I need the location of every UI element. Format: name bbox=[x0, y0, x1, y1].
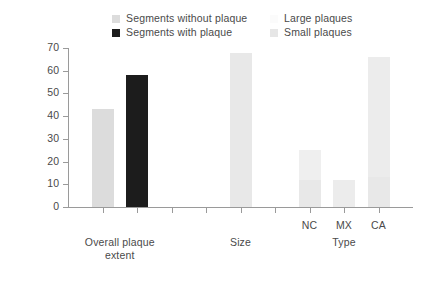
x-axis-tick bbox=[344, 207, 345, 213]
bar bbox=[126, 75, 148, 207]
x-axis-group-label: Overall plaqueextent bbox=[75, 236, 165, 262]
y-axis-tick-label: 0 bbox=[53, 200, 59, 212]
legend-swatch-segments-without-plaque bbox=[112, 15, 120, 23]
legend-label-small-plaques: Small plaques bbox=[284, 27, 352, 38]
x-axis-group-label-line: Size bbox=[196, 236, 286, 249]
bar-segment bbox=[333, 180, 355, 207]
x-axis-tick bbox=[137, 207, 138, 213]
chart-legend: Segments without plaque Segments with pl… bbox=[112, 12, 412, 42]
x-axis-group-label-line: extent bbox=[75, 249, 165, 262]
y-axis-tick-label: 50 bbox=[47, 86, 59, 98]
y-axis-tick: 20 bbox=[63, 162, 68, 163]
plot-area: 010203040506070 bbox=[68, 48, 413, 207]
x-axis-tick bbox=[275, 207, 276, 213]
legend-column-left: Segments without plaque Segments with pl… bbox=[112, 12, 247, 40]
x-axis-tick bbox=[103, 207, 104, 213]
y-axis-tick: 10 bbox=[63, 184, 68, 185]
bar-segment bbox=[126, 75, 148, 207]
bar bbox=[92, 109, 114, 207]
bar bbox=[368, 57, 390, 207]
bar bbox=[230, 53, 252, 207]
y-axis-tick: 50 bbox=[63, 93, 68, 94]
y-axis-line bbox=[68, 48, 69, 207]
y-axis-tick-label: 30 bbox=[47, 132, 59, 144]
x-axis-group-label: Size bbox=[196, 236, 286, 249]
chart-figure: Segments without plaque Segments with pl… bbox=[0, 0, 421, 292]
y-axis-tick: 70 bbox=[63, 48, 68, 49]
legend-label-segments-without-plaque: Segments without plaque bbox=[126, 13, 247, 24]
y-axis-tick-label: 70 bbox=[47, 41, 59, 53]
y-axis-tick-label: 10 bbox=[47, 177, 59, 189]
bar bbox=[299, 150, 321, 207]
y-axis-tick: 30 bbox=[63, 139, 68, 140]
y-axis-tick-label: 40 bbox=[47, 109, 59, 121]
x-axis-tick bbox=[241, 207, 242, 213]
x-axis-group-label-line: Overall plaque bbox=[75, 236, 165, 249]
x-axis-group-label: Type bbox=[299, 236, 389, 249]
y-axis-tick: 60 bbox=[63, 71, 68, 72]
legend-swatch-large-plaques bbox=[270, 15, 278, 23]
bar-segment bbox=[230, 53, 252, 207]
legend-item-large-plaques: Large plaques bbox=[270, 12, 353, 25]
x-axis-tick bbox=[172, 207, 173, 213]
y-axis-tick: 40 bbox=[63, 116, 68, 117]
legend-swatch-segments-with-plaque bbox=[112, 29, 120, 37]
legend-item-small-plaques: Small plaques bbox=[270, 26, 353, 39]
bar-segment bbox=[368, 177, 390, 207]
bar-segment bbox=[299, 150, 321, 180]
bar-segment bbox=[368, 57, 390, 177]
x-axis-group-label-line: Type bbox=[299, 236, 389, 249]
y-axis-tick-label: 60 bbox=[47, 64, 59, 76]
legend-item-segments-without-plaque: Segments without plaque bbox=[112, 12, 247, 25]
legend-swatch-small-plaques bbox=[270, 29, 278, 37]
bar bbox=[333, 180, 355, 207]
x-axis-tick bbox=[206, 207, 207, 213]
x-axis-category-label: CA bbox=[349, 219, 409, 232]
legend-item-segments-with-plaque: Segments with plaque bbox=[112, 26, 247, 39]
legend-label-large-plaques: Large plaques bbox=[284, 13, 353, 24]
legend-label-segments-with-plaque: Segments with plaque bbox=[126, 27, 232, 38]
bar-segment bbox=[92, 109, 114, 207]
x-axis-tick bbox=[310, 207, 311, 213]
bar-segment bbox=[299, 180, 321, 207]
x-axis-tick bbox=[379, 207, 380, 213]
y-axis-tick-label: 20 bbox=[47, 155, 59, 167]
y-axis-tick: 0 bbox=[63, 207, 68, 208]
legend-column-right: Large plaques Small plaques bbox=[270, 12, 353, 40]
